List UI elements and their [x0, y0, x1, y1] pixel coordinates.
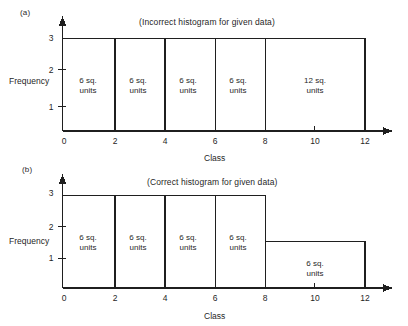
x-axis-label-b: Class — [204, 311, 225, 321]
bar-annotation-a-1: 6 sq. units — [63, 76, 113, 95]
x-tick-label-10-a: 10 — [308, 136, 322, 146]
x-tick-label-8-a: 8 — [259, 136, 271, 146]
x-tick-label-2-b: 2 — [109, 293, 121, 303]
y-tick-label-2-b: 2 — [46, 222, 56, 232]
bar-annotation-line1: 6 sq. — [179, 233, 196, 242]
bar-annotation-line2: units — [163, 86, 213, 96]
y-tick-label-3-a: 3 — [46, 33, 56, 43]
bar-annotation-line1: 6 sq. — [229, 76, 246, 85]
bar-annotation-a-2: 6 sq. units — [113, 76, 163, 95]
bar-annotation-line2: units — [113, 243, 163, 253]
y-tick-label-2-a: 2 — [46, 65, 56, 75]
x-axis-label-a: Class — [204, 153, 225, 163]
bar-annotation-line2: units — [63, 86, 113, 96]
y-axis-label-a: Frequency — [9, 76, 49, 86]
x-tick-label-0-b: 0 — [58, 293, 70, 303]
x-tick-label-10-b: 10 — [308, 293, 322, 303]
bar-annotation-line2: units — [163, 243, 213, 253]
bar-annotation-line1: 6 sq. — [79, 76, 96, 85]
panel-correct-histogram: (b) (Correct histogram for given data) F… — [0, 163, 408, 326]
panel-letter-b: (b) — [22, 165, 32, 174]
y-axis-label-b: Frequency — [9, 236, 49, 246]
x-tick-label-6-a: 6 — [209, 136, 221, 146]
x-tick-label-8-b: 8 — [259, 293, 271, 303]
chart-title-b: (Correct histogram for given data) — [147, 177, 277, 187]
figure-root: (a) (Incorrect histogram for given data)… — [0, 0, 408, 326]
bar-annotation-line1: 6 sq. — [129, 76, 146, 85]
x-tick-label-2-a: 2 — [109, 136, 121, 146]
bar-annotation-line2: units — [113, 86, 163, 96]
bar-annotation-line1: 6 sq. — [229, 233, 246, 242]
bar-annotation-line2: units — [290, 86, 340, 96]
bar-annotation-line1: 6 sq. — [129, 233, 146, 242]
panel-letter-a: (a) — [20, 8, 30, 17]
y-tick-label-3-b: 3 — [46, 188, 56, 198]
bar-annotation-a-5: 12 sq. units — [290, 76, 340, 95]
x-tick-label-0-a: 0 — [58, 136, 70, 146]
x-tick-label-4-b: 4 — [159, 293, 171, 303]
bar-annotation-line1: 6 sq. — [179, 76, 196, 85]
x-tick-label-12-a: 12 — [358, 136, 372, 146]
x-tick-label-12-b: 12 — [358, 293, 372, 303]
x-tick-label-4-a: 4 — [159, 136, 171, 146]
bar-annotation-a-4: 6 sq. units — [213, 76, 263, 95]
y-tick-label-1-b: 1 — [46, 253, 56, 263]
bar-annotation-b-4: 6 sq. units — [213, 233, 263, 252]
bar-annotation-b-3: 6 sq. units — [163, 233, 213, 252]
bar-annotation-b-2: 6 sq. units — [113, 233, 163, 252]
y-tick-label-1-a: 1 — [46, 102, 56, 112]
bar-annotation-a-3: 6 sq. units — [163, 76, 213, 95]
x-tick-label-6-b: 6 — [209, 293, 221, 303]
bar-annotation-line2: units — [290, 269, 340, 279]
bar-annotation-b-5: 6 sq. units — [290, 259, 340, 278]
chart-title-a: (Incorrect histogram for given data) — [139, 17, 275, 27]
bar-annotation-line1: 12 sq. — [304, 76, 326, 85]
bar-annotation-line1: 6 sq. — [306, 259, 323, 268]
bar-annotation-line2: units — [213, 243, 263, 253]
bar-annotation-line1: 6 sq. — [79, 233, 96, 242]
bar-annotation-line2: units — [63, 243, 113, 253]
bar-annotation-line2: units — [213, 86, 263, 96]
bar-annotation-b-1: 6 sq. units — [63, 233, 113, 252]
panel-incorrect-histogram: (a) (Incorrect histogram for given data)… — [0, 0, 408, 163]
